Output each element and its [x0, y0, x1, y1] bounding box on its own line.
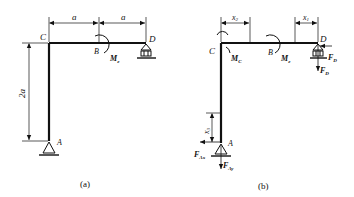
point-a-label: A [56, 138, 62, 147]
point-a-label-b: A [227, 139, 233, 148]
moment-label-mc: MC [230, 54, 242, 64]
point-d-label-b: D [319, 34, 327, 44]
point-d-label: D [148, 34, 156, 44]
pin-support-a-icon [39, 142, 59, 155]
frame-a [49, 43, 146, 141]
dim-label-a-left: a [72, 12, 77, 22]
roller-support-d-icon [137, 44, 156, 58]
force-label-fd-h: FD [327, 53, 337, 63]
moment-arc-mc [217, 31, 228, 35]
point-b-label: B [94, 47, 99, 56]
point-c-label-b: C [209, 46, 216, 56]
force-label-fax: FAx [193, 150, 206, 160]
dimension-a-top [49, 17, 146, 42]
figure-b: x2 x1 x3 MC Me C B D A [193, 13, 337, 191]
dim-label-2a: 2a [17, 89, 27, 99]
force-label-fd-v: FD [319, 66, 329, 76]
moment-label-me: Me [109, 54, 120, 64]
dim-label-a-right: a [121, 12, 126, 22]
point-b-label-b: B [268, 48, 273, 57]
caption-b: (b) [258, 181, 269, 191]
moment-arc-mc-tail [226, 47, 230, 53]
point-c-label: C [40, 32, 47, 42]
dimension-x3 [206, 113, 220, 142]
frame-diagrams: a a 2a Me C B D A (a) [0, 0, 354, 197]
dim-label-x2: x2 [231, 13, 239, 22]
moment-label-me-b: Me [280, 54, 291, 64]
figure-a: a a 2a Me C B D A (a) [17, 12, 156, 189]
force-label-fay: FAy [222, 161, 234, 171]
caption-a: (a) [80, 179, 90, 189]
dim-label-x1: x1 [302, 13, 309, 22]
dim-label-x3: x3 [202, 127, 211, 135]
